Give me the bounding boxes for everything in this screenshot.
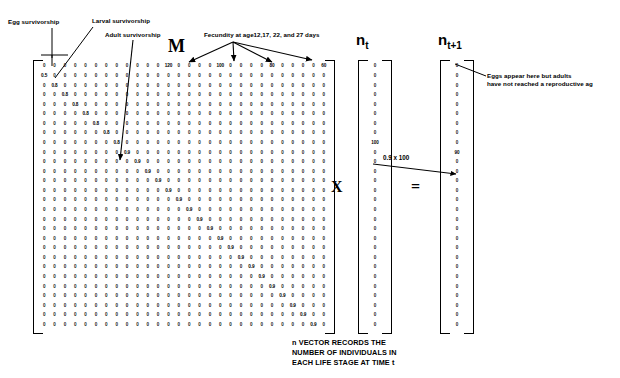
matrix-cell-0-26: 0 [308,62,318,72]
matrix-cell-8-15: 0 [194,139,204,149]
matrix-cell-6-15: 0 [194,119,204,129]
matrix-cell-4-23: 0 [277,100,287,110]
matrix-cell-23-6: 0 [101,282,111,292]
matrix-cell-22-3: 0 [70,273,80,283]
matrix-cell-20-15: 0 [194,253,204,263]
matrix-cell-6-8: 0 [122,119,132,129]
matrix-cell-18-10: 0 [143,234,153,244]
matrix-cell-18-9: 0 [132,234,142,244]
matrix-cell-12-20: 0 [246,177,256,187]
matrix-cell-0-11: 0 [153,62,163,72]
matrix-cell-20-25: 0 [298,253,308,263]
matrix-cell-18-2: 0 [60,234,70,244]
matrix-cell-6-23: 0 [277,119,287,129]
matrix-cell-9-23: 0 [277,148,287,158]
matrix-cell-22-25: 0 [298,273,308,283]
matrix-cell-17-26: 0 [308,225,318,235]
matrix-cell-5-22: 0 [267,110,277,120]
matrix-cell-8-22: 0 [267,139,277,149]
matrix-larval-survivorship-5: 0.8 [80,110,90,120]
matrix-cell-12-1: 0 [49,177,59,187]
matrix-cell-1-21: 0 [256,72,266,82]
matrix-cell-26-16: 0 [205,311,215,321]
matrix-cell-12-6: 0 [101,177,111,187]
matrix-cell-15-12: 0 [163,206,173,216]
matrix-cell-8-20: 0 [246,139,256,149]
matrix-cell-4-4: 0 [80,100,90,110]
matrix-cell-22-2: 0 [60,273,70,283]
matrix-cell-10-22: 0 [267,158,277,168]
matrix-adult-survivorship-25: 0.9 [288,301,298,311]
matrix-cell-19-13: 0 [174,244,184,254]
matrix-cell-12-17: 0 [215,177,225,187]
matrix-cell-19-2: 0 [60,244,70,254]
matrix-cell-17-7: 0 [111,225,121,235]
matrix-cell-5-7: 0 [111,110,121,120]
matrix-adult-survivorship-13: 0.9 [163,186,173,196]
matrix-fecundity-27: 60 [319,62,329,72]
matrix-cell-13-7: 0 [111,186,121,196]
matrix-cell-25-18: 0 [225,301,235,311]
matrix-cell-14-2: 0 [60,196,70,206]
matrix-cell-20-1: 0 [49,253,59,263]
matrix-cell-23-0: 0 [39,282,49,292]
matrix-cell-8-6: 0 [101,139,111,149]
matrix-cell-22-12: 0 [163,273,173,283]
matrix-cell-16-0: 0 [39,215,49,225]
matrix-cell-17-5: 0 [91,225,101,235]
matrix-cell-20-7: 0 [111,253,121,263]
matrix-cell-6-2: 0 [60,119,70,129]
matrix-cell-6-4: 0 [80,119,90,129]
nt1-cell-21: 0 [445,263,469,273]
matrix-cell-8-12: 0 [163,139,173,149]
caption-block: n VECTOR RECORDS THE NUMBER OF INDIVIDUA… [292,338,397,368]
nt1-cell-13: 0 [445,186,469,196]
matrix-cell-26-5: 0 [91,311,101,321]
label-larval-survivorship: Larval survivorship [92,17,150,25]
matrix-cell-21-4: 0 [80,263,90,273]
matrix-cell-8-14: 0 [184,139,194,149]
matrix-cell-11-24: 0 [288,167,298,177]
matrix-cell-3-12: 0 [163,91,173,101]
matrix-cell-9-1: 0 [49,148,59,158]
matrix-cell-14-11: 0 [153,196,163,206]
matrix-cell-24-10: 0 [143,292,153,302]
matrix-cell-24-11: 0 [153,292,163,302]
matrix-cell-26-4: 0 [80,311,90,321]
matrix-cell-25-7: 0 [111,301,121,311]
matrix-cell-2-17: 0 [215,81,225,91]
matrix-cell-16-17: 0 [215,215,225,225]
matrix-cell-9-24: 0 [288,148,298,158]
matrix-cell-1-24: 0 [288,72,298,82]
matrix-cell-6-12: 0 [163,119,173,129]
matrix-adult-survivorship-9: 0.9 [122,148,132,158]
matrix-cell-13-0: 0 [39,186,49,196]
matrix-cell-18-23: 0 [277,234,287,244]
matrix-cell-0-7: 0 [111,62,121,72]
matrix-cell-1-18: 0 [225,72,235,82]
matrix-cell-13-23: 0 [277,186,287,196]
matrix-cell-27-9: 0 [132,320,142,330]
matrix-symbol-M: M [168,36,185,57]
matrix-fecundity-17: 100 [215,62,225,72]
matrix-cell-20-20: 0 [246,253,256,263]
matrix-cell-8-16: 0 [205,139,215,149]
matrix-cell-8-1: 0 [49,139,59,149]
matrix-cell-15-27: 0 [319,206,329,216]
vector-label-nt1: nt+1 [438,31,462,51]
matrix-cell-0-15: 0 [194,62,204,72]
matrix-cell-23-12: 0 [163,282,173,292]
matrix-adult-survivorship-16: 0.9 [194,215,204,225]
matrix-cell-20-4: 0 [80,253,90,263]
matrix-larval-survivorship-7: 0.8 [101,129,111,139]
matrix-cell-26-9: 0 [132,311,142,321]
matrix-cell-9-14: 0 [184,148,194,158]
matrix-cell-13-16: 0 [205,186,215,196]
matrix-cell-25-11: 0 [153,301,163,311]
matrix-cell-16-20: 0 [246,215,256,225]
matrix-cell-2-13: 0 [174,81,184,91]
nt1-cell-19: 0 [445,244,469,254]
matrix-cell-2-6: 0 [101,81,111,91]
matrix-cell-19-0: 0 [39,244,49,254]
matrix-cell-7-26: 0 [308,129,318,139]
